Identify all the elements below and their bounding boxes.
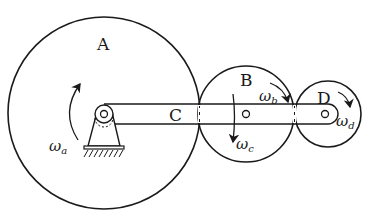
arm-c-label: C <box>169 105 182 125</box>
omega-a-arrow-icon <box>69 84 80 140</box>
omega-c-label: ωc <box>236 135 254 154</box>
gear-d-label: D <box>317 88 331 108</box>
omega-a-label: ωa <box>49 137 67 156</box>
pivot-b-pin <box>243 111 250 118</box>
ground-support <box>84 105 124 157</box>
omega-c-arrow-icon <box>233 94 235 142</box>
omega-d-label: ωd <box>336 112 355 131</box>
arm-c <box>104 104 338 124</box>
pivot-d-pin <box>322 111 329 118</box>
omega-d-arrow-icon <box>338 92 350 107</box>
gear-train-diagram: A B D C ωa ωb ωc ωd <box>0 0 369 219</box>
gear-b-label: B <box>240 70 253 90</box>
omega-b-label: ωb <box>259 87 278 106</box>
gear-a-label: A <box>96 34 110 54</box>
pivot-a-pin <box>101 111 108 118</box>
